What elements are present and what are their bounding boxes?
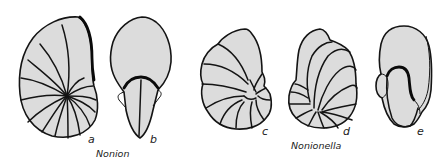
specimen-e-nonionella-edge	[376, 26, 432, 127]
specimen-a-nonion-side	[19, 17, 97, 138]
foraminifera-figure	[0, 0, 446, 165]
caption-nonion: Nonion	[96, 149, 129, 159]
label-c: c	[262, 126, 268, 137]
specimen-d-nonionella-umbilical	[289, 29, 357, 128]
specimen-b-nonion-edge	[111, 17, 172, 138]
specimen-c-nonionella-spiral	[201, 29, 272, 129]
label-b: b	[150, 134, 157, 145]
caption-nonionella: Nonionella	[291, 141, 341, 151]
label-d: d	[343, 126, 350, 137]
label-a: a	[88, 134, 95, 145]
label-e: e	[417, 126, 424, 137]
